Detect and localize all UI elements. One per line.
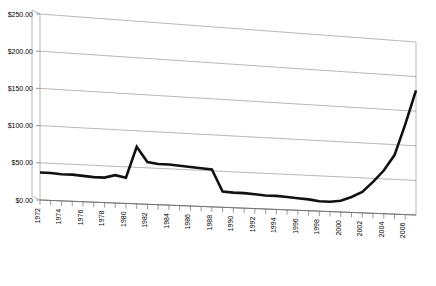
x-axis-tick-label: 1988 — [206, 215, 213, 231]
x-axis-tick-label: 1974 — [55, 209, 62, 225]
chart-background — [0, 0, 436, 286]
x-axis-tick-label: 2004 — [378, 222, 385, 238]
y-axis-tick-label: $200.00 — [8, 48, 33, 55]
x-axis-tick-label: 1990 — [227, 216, 234, 232]
y-axis-tick-label: $0.00 — [15, 197, 33, 204]
y-axis-tick-label: $100.00 — [8, 122, 33, 129]
x-axis-tick-label: 1994 — [270, 217, 277, 233]
x-axis-tick-label: 1980 — [120, 211, 127, 227]
x-axis-tick-label: 1996 — [292, 218, 299, 234]
x-axis-tick-label: 1986 — [184, 214, 191, 230]
x-axis-tick-label: 1998 — [313, 219, 320, 235]
x-axis-tick-label: 1978 — [98, 210, 105, 226]
x-axis-tick-label: 1982 — [141, 212, 148, 228]
line-chart: $0.00$50.00$100.00$150.00$200.00$250.00 … — [0, 0, 436, 286]
x-axis-tick-label: 1984 — [163, 213, 170, 229]
chart-canvas: $0.00$50.00$100.00$150.00$200.00$250.00 … — [0, 0, 436, 286]
x-axis-tick-label: 2000 — [335, 220, 342, 236]
x-axis-tick-label: 1976 — [77, 210, 84, 226]
y-axis-tick-label: $150.00 — [8, 85, 33, 92]
x-axis-tick-label: 2006 — [399, 222, 406, 238]
x-axis-tick-label: 1992 — [249, 216, 256, 232]
x-axis-tick-label: 1972 — [34, 208, 41, 224]
x-axis-tick-label: 2002 — [356, 221, 363, 237]
y-axis-tick-label: $250.00 — [8, 11, 33, 18]
y-axis-tick-label: $50.00 — [12, 159, 34, 166]
